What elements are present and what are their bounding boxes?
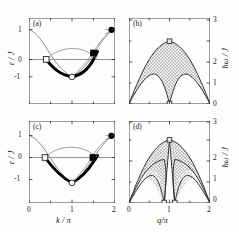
panel-d-marker-apex: [167, 138, 172, 143]
panel-b-ytick-3: 3: [213, 16, 217, 24]
panel-d-ytick-1: 1: [213, 175, 217, 183]
panel-d-ylabel: ħω / J: [221, 137, 230, 177]
panel-d-ytick-0: 0: [213, 196, 217, 204]
panel-a-plot: [29, 18, 115, 104]
panel-c-ytick-1: 1: [18, 131, 22, 139]
panel-d-marker-node-left: [162, 200, 167, 203]
panel-d-xtick-0: 0: [127, 206, 131, 214]
panel-c-marker-filled-square-right: [90, 155, 96, 161]
panel-d-marker-node-right: [173, 200, 178, 203]
panel-c-xtick-1: 1: [70, 206, 74, 214]
panel-c: (c): [29, 121, 115, 203]
panel-c-ytick-0: 0: [18, 153, 22, 161]
panel-c-xtick-2: 2: [112, 206, 116, 214]
panel-c-ylabel: ε / J: [7, 140, 16, 174]
panel-b-label: (b): [133, 20, 142, 28]
panel-d-ytick-2: 2: [213, 154, 217, 162]
panel-b-ytick-0: 0: [213, 100, 217, 108]
panel-b-plot: [129, 18, 210, 104]
panel-c-xtick-0: 0: [27, 206, 31, 214]
panel-c-marker-open-square-left: [42, 155, 48, 161]
panel-d-frame: [129, 121, 210, 203]
panel-a-marker-open-circle-minimum: [69, 74, 75, 80]
panel-c-frame: [29, 121, 115, 203]
panel-a-label: (a): [33, 20, 41, 28]
panel-d: (d): [129, 121, 210, 203]
panel-a-ylabel: ε / J: [7, 41, 16, 75]
panel-d-ytick-3: 3: [213, 118, 217, 126]
panel-a-frame: [29, 18, 115, 104]
panel-a: (a): [29, 18, 115, 104]
panel-c-plot: [29, 121, 115, 203]
panel-d-xlabel: q/π: [157, 216, 168, 225]
panel-a-marker-filled-square-right: [91, 50, 97, 56]
panel-a-marker-open-square-left: [43, 57, 49, 63]
panel-c-xlabel: k / π: [56, 216, 71, 225]
panel-b-ytick-1: 1: [213, 79, 217, 87]
panel-d-plot: [129, 121, 210, 203]
panel-a-ytick-0: 0: [18, 56, 22, 64]
panel-d-xtick-2: 2: [207, 206, 211, 214]
panel-b-marker-apex: [167, 39, 172, 44]
panel-b-ytick-2: 2: [213, 58, 217, 66]
panel-d-xtick-1: 1: [167, 206, 171, 214]
panel-c-ytick-m1: -1: [14, 175, 20, 183]
panel-c-label: (c): [33, 123, 41, 131]
panel-c-marker-open-circle-minimum: [69, 180, 75, 186]
panel-a-ytick-1: 1: [18, 26, 22, 34]
panel-d-label: (d): [133, 123, 142, 131]
figure-root: (a) 1 0 -1 ε / J: [0, 0, 239, 232]
panel-b-ylabel: ħω / J: [221, 38, 230, 78]
panel-b: (b): [129, 18, 210, 104]
